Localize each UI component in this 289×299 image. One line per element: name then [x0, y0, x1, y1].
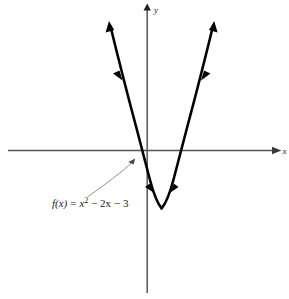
- figure-background: [0, 0, 289, 299]
- parabola-graph-figure: x y f(x)=x2− 2x− 3: [0, 0, 289, 299]
- fn-term1-exponent-token: 2: [84, 196, 88, 205]
- x-axis-label: x: [282, 146, 287, 156]
- fn-name-token: f(x): [52, 197, 68, 210]
- function-equation-label: f(x)=x2− 2x− 3: [52, 196, 129, 210]
- fn-term3-token: − 3: [114, 197, 129, 209]
- function-equation-text: f(x)=x2− 2x− 3: [52, 196, 129, 210]
- y-axis-label: y: [153, 5, 158, 15]
- fn-equals-token: =: [70, 197, 76, 209]
- fn-term2-token: − 2x: [91, 197, 111, 209]
